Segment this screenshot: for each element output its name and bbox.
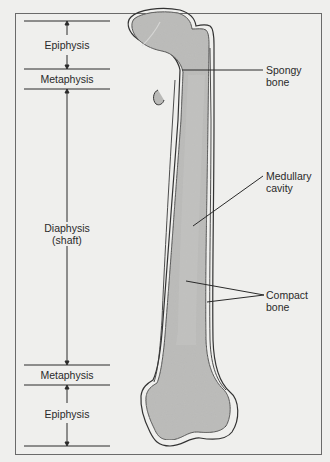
callout-medullary-line1: Medullary — [266, 170, 312, 182]
label-epiphysis-top: Epiphysis — [42, 39, 92, 51]
label-metaphysis-bottom: Metaphysis — [38, 369, 96, 381]
callout-spongy-bone: Spongy bone — [266, 64, 302, 88]
callout-medullary-line2: cavity — [266, 182, 312, 194]
callout-spongy-line2: bone — [266, 76, 302, 88]
label-diaphysis: Diaphysis (shaft) — [38, 222, 96, 246]
label-metaphysis-top: Metaphysis — [38, 73, 96, 85]
label-epiphysis-bottom: Epiphysis — [42, 408, 92, 420]
label-diaphysis-sub: (shaft) — [38, 234, 96, 246]
callout-compact-bone: Compact bone — [266, 289, 308, 313]
callout-compact-line2: bone — [266, 301, 308, 313]
lesser-trochanter — [154, 90, 164, 105]
bone-fill — [132, 12, 230, 440]
callout-spongy-line1: Spongy — [266, 64, 302, 76]
compact-inner-line-right — [210, 48, 226, 390]
label-diaphysis-main: Diaphysis — [38, 222, 96, 234]
callout-compact-line1: Compact — [266, 289, 308, 301]
callout-medullary-cavity: Medullary cavity — [266, 170, 312, 194]
